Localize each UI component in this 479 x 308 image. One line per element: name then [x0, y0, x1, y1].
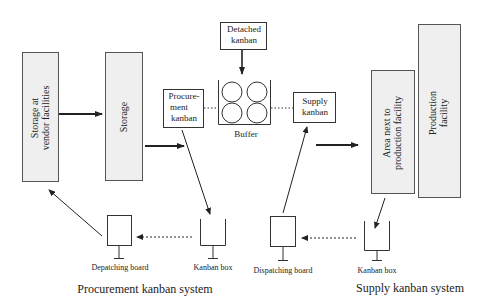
procurement-kanban-label: Procure- ment kanban	[164, 91, 204, 124]
depatching-board-label: Depatching board	[84, 263, 156, 273]
storage-label: Storage	[118, 77, 130, 157]
detached-kanban-label: Detached kanban	[221, 24, 267, 46]
area-next-label: Area next to production facility	[381, 73, 405, 193]
kanban-diagram	[0, 0, 479, 308]
supply-kanban-label: Supply kanban	[294, 96, 336, 118]
buffer-label: Buffer	[226, 129, 266, 139]
detached-line1: Detached	[221, 24, 267, 35]
supply-line1: Supply	[294, 96, 336, 107]
area-next-line2: production facility	[392, 73, 403, 193]
buffer-item	[247, 103, 267, 123]
dispatching-board	[271, 217, 296, 247]
storage-vendor-line2: vendor facilities	[40, 53, 51, 183]
procurement-line1: Procure-	[164, 91, 204, 102]
production-line2: facility	[438, 73, 449, 153]
depatching-board	[108, 216, 132, 246]
buffer-item	[222, 82, 242, 102]
arrow-procurement-to-kanbanbox	[182, 130, 210, 214]
procurement-line3: kanban	[164, 113, 204, 124]
procurement-line2: ment	[164, 102, 204, 113]
arrow-area-to-kanbanbox	[375, 198, 385, 228]
storage-vendor-label: Storage at vendor facilities	[29, 53, 53, 183]
storage-text: Storage	[118, 77, 129, 157]
area-next-line1: Area next to	[381, 73, 392, 193]
kanban-box-right	[365, 221, 390, 251]
supply-system-title: Supply kanban system	[340, 283, 479, 293]
arrow-board-to-vendor	[49, 190, 102, 236]
buffer-item	[247, 82, 267, 102]
production-line1: Production	[427, 73, 438, 153]
kanban-box-right-label: Kanban box	[350, 266, 404, 276]
arrow-dispatching-to-supply	[283, 127, 307, 213]
supply-line2: kanban	[294, 107, 336, 118]
detached-line2: kanban	[221, 35, 267, 46]
dispatching-board-label: Dispatching board	[245, 266, 321, 276]
procurement-system-title: Procurement kanban system	[50, 284, 240, 294]
kanban-box-left	[201, 219, 226, 246]
kanban-box-left-label: Kanban box	[186, 263, 240, 273]
buffer-item	[222, 103, 242, 123]
storage-vendor-line1: Storage at	[29, 53, 40, 183]
production-facility-label: Production facility	[427, 73, 451, 153]
